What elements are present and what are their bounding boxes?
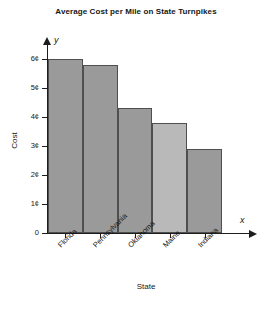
chart-title: Average Cost per Mile on State Turnpikes: [0, 7, 272, 16]
y-tick-label: 6¢: [31, 54, 39, 63]
x-axis-title: State: [0, 282, 272, 291]
y-tick-label: 2¢: [31, 170, 39, 179]
bar-chart: Average Cost per Mile on State Turnpikes…: [0, 0, 272, 310]
y-axis-arrow-icon: [43, 37, 51, 45]
bar-pennsylvania: [83, 65, 118, 233]
bar-maine: [152, 123, 187, 233]
bar-florida: [48, 59, 83, 233]
y-tick-label: 1¢: [31, 199, 39, 208]
plot-area: [48, 59, 222, 233]
bar-indiana: [187, 149, 222, 233]
x-axis-variable-label: x: [240, 215, 245, 225]
y-tick-label: 3¢: [31, 141, 39, 150]
y-tick-label: 5¢: [31, 83, 39, 92]
x-axis-arrow-icon: [249, 230, 257, 238]
y-tick-label: 0: [35, 228, 39, 237]
y-axis-title: Cost: [10, 119, 19, 163]
y-tick-label: 4¢: [31, 112, 39, 121]
y-axis-variable-label: y: [54, 35, 59, 45]
y-tick-mark: [42, 233, 48, 234]
